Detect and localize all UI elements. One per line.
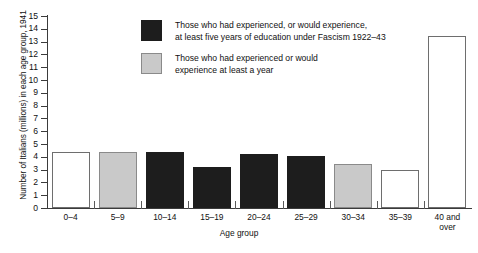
y-axis-tick-label: 9 [12,88,38,97]
y-axis-tick-label: 13 [12,37,38,46]
y-axis-tick-label-text: 8 [14,101,38,110]
bar [52,152,90,208]
x-axis-line [47,208,472,209]
bar [428,36,466,208]
bar-chart: Number of Italians (millions) in each ag… [0,0,478,253]
y-axis-tick-label: 2 [12,178,38,187]
legend-swatch [141,20,162,41]
y-axis-tick-label-text: 2 [14,178,38,187]
x-axis-title: Age group [0,228,478,238]
y-axis-tick-label-text: 7 [14,114,38,123]
legend-item: Those who had experienced or would exper… [141,52,386,76]
y-axis-tick-label: 11 [12,63,38,72]
y-axis-tick [41,208,47,209]
y-axis-tick-label: 15 [12,12,38,21]
y-axis-tick-label: 14 [12,24,38,33]
x-axis-tick-label: 20–24 [235,212,282,222]
y-axis-tick-label-text: 5 [14,140,38,149]
y-axis-tick-label: 7 [12,114,38,123]
bar [193,167,231,208]
bar [381,170,419,208]
bar [146,152,184,208]
y-axis-tick-label-text: 3 [14,165,38,174]
x-axis-tick [424,201,425,209]
bar [240,154,278,208]
x-axis-tick [235,201,236,209]
bar [99,152,137,208]
bar [287,156,325,208]
y-axis-tick-label-text: 12 [14,50,38,59]
y-axis-tick-label: 12 [12,50,38,59]
x-axis-tick-label: 30–34 [330,212,377,222]
y-axis-tick-label: 8 [12,101,38,110]
y-axis-tick-label: 10 [12,76,38,85]
y-axis-tick-label-text: 14 [14,24,38,33]
y-axis-tick-label: 5 [12,140,38,149]
y-axis-tick-label-text: 13 [14,37,38,46]
x-axis-tick [283,201,284,209]
x-axis-tick [377,201,378,209]
legend-swatch [141,53,162,74]
x-axis-tick [330,201,331,209]
x-axis-tick-label: 0–4 [47,212,94,222]
bar [334,164,372,208]
x-axis-tick [188,201,189,209]
legend-label: Those who had experienced or would exper… [175,52,318,76]
legend-item: Those who had experienced, or would expe… [141,19,386,43]
x-axis-tick [94,201,95,209]
x-axis-tick-label: 35–39 [377,212,424,222]
x-axis-tick-label: 25–29 [283,212,330,222]
y-axis-tick-label-text: 6 [14,127,38,136]
y-axis-tick-label-text: 9 [14,88,38,97]
y-axis-tick-label: 4 [12,152,38,161]
y-axis-tick-label-text: 10 [14,76,38,85]
y-axis-tick-label-text: 0 [14,204,38,213]
y-axis-tick-label-text: 11 [14,63,38,72]
y-axis-tick-label: 3 [12,165,38,174]
y-axis-tick-label: 1 [12,191,38,200]
x-axis-tick-label: 15–19 [188,212,235,222]
y-axis-tick-label-text: 15 [14,12,38,21]
chart-legend: Those who had experienced, or would expe… [141,19,386,85]
legend-label: Those who had experienced, or would expe… [175,19,386,43]
x-axis-tick [141,201,142,209]
y-axis-tick-label-text: 1 [14,191,38,200]
x-axis-tick-label: 10–14 [141,212,188,222]
y-axis-tick-label: 0 [12,204,38,213]
y-axis-tick-label: 6 [12,127,38,136]
x-axis-tick-label: 5–9 [94,212,141,222]
y-axis-tick-label-text: 4 [14,152,38,161]
